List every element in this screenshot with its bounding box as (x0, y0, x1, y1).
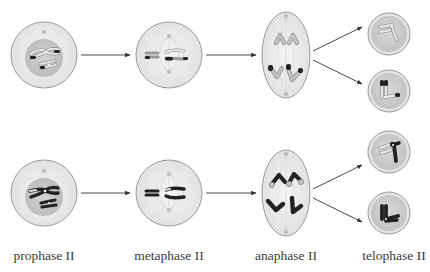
stage-label-metaphase: metaphase II (134, 248, 203, 264)
centrosome-icon (42, 169, 46, 173)
arrow-icon (313, 165, 362, 189)
prophase-cell-top (11, 22, 77, 88)
arrow-icon (313, 27, 362, 51)
centrosome-icon (284, 152, 288, 156)
row-top (11, 12, 410, 112)
arrow-icon (313, 60, 362, 84)
centrosome-icon (284, 92, 288, 96)
centrosome-icon (167, 34, 171, 38)
anaphase-cell-bottom (262, 150, 310, 236)
telophase-cell-bottom-1 (368, 131, 410, 173)
metaphase-cell-top (136, 22, 202, 88)
telophase-cell-top-2 (368, 70, 410, 112)
metaphase-cell-bottom (136, 160, 202, 226)
centrosome-icon (167, 70, 171, 74)
centrosome-icon (42, 30, 46, 34)
centrosome-icon (284, 14, 288, 18)
centrosome-icon (284, 230, 288, 234)
telophase-cell-bottom-2 (368, 192, 410, 234)
arrow-icon (313, 198, 362, 222)
stage-label-prophase: prophase II (13, 248, 74, 264)
telophase-cell-top-1 (368, 13, 410, 55)
anaphase-cell-top (262, 12, 310, 98)
meiosis-ii-diagram (0, 0, 430, 272)
prophase-cell-bottom (11, 160, 77, 226)
centrosome-icon (167, 208, 171, 212)
stage-label-anaphase: anaphase II (255, 248, 317, 264)
stage-label-telophase: telophase II (362, 248, 425, 264)
row-bottom (11, 131, 410, 236)
centrosome-icon (167, 172, 171, 176)
